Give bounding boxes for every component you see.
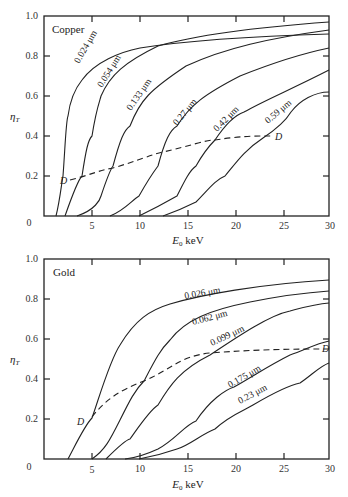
gold-ytick-1.0: 1.0 xyxy=(26,253,39,264)
gold-ytick-0.4: 0.4 xyxy=(26,373,39,384)
gold-curve-0.099 xyxy=(106,303,329,459)
gold-origin-label: 0 xyxy=(27,461,32,472)
gold-xtick-15: 15 xyxy=(183,463,193,474)
copper-origin-label: 0 xyxy=(27,217,32,228)
gold-xtick-10: 10 xyxy=(135,463,145,474)
copper-xtick-20: 20 xyxy=(231,220,241,231)
gold-label-0.062: 0.062 μm xyxy=(191,308,229,327)
copper-xtick-10: 10 xyxy=(135,220,145,231)
copper-y-axis-title: ηT xyxy=(10,110,20,124)
gold-ytick-0.2: 0.2 xyxy=(26,413,39,424)
copper-label-0.27: 0.27 μm xyxy=(171,96,199,127)
copper-D-line xyxy=(70,136,272,180)
copper-label-0.42: 0.42 μm xyxy=(211,104,241,134)
copper-xtick-25: 25 xyxy=(279,220,289,231)
copper-ytick-0.6: 0.6 xyxy=(26,90,39,101)
gold-x-axis-title: E0 keV xyxy=(171,478,203,492)
copper-xtick-15: 15 xyxy=(183,220,193,231)
gold-D-end-label: D xyxy=(321,343,330,354)
gold-curves xyxy=(68,280,329,459)
copper-curves xyxy=(56,22,329,216)
copper-ytick-0.8: 0.8 xyxy=(26,50,39,61)
copper-label-0.59: 0.59 μm xyxy=(263,97,294,125)
gold-label-0.23: 0.23 μm xyxy=(236,382,269,406)
gold-chart: 1.0 0.8 0.6 0.4 0.2 0 5 10 15 20 25 30 E… xyxy=(10,253,335,492)
copper-D-end-label: D xyxy=(274,131,283,142)
gold-D-start-label: D xyxy=(76,416,85,427)
copper-curve-0.42 xyxy=(139,70,329,216)
copper-x-axis-title: E0 keV xyxy=(171,234,203,248)
gold-label-0.026: 0.026 μm xyxy=(184,285,222,301)
gold-panel-title: Gold xyxy=(53,266,76,278)
copper-ytick-1.0: 1.0 xyxy=(26,10,39,21)
gold-xtick-5: 5 xyxy=(90,464,95,475)
figure: 1.0 0.8 0.6 0.4 0.2 0 5 10 15 20 25 30 E… xyxy=(0,0,348,497)
gold-y-axis-title: ηT xyxy=(10,353,20,367)
gold-xtick-25: 25 xyxy=(279,463,289,474)
copper-panel-title: Copper xyxy=(52,23,85,35)
copper-xtick-5: 5 xyxy=(90,220,95,231)
gold-curve-0.026 xyxy=(68,280,329,459)
gold-xtick-30: 30 xyxy=(325,463,335,474)
copper-D-start-label: D xyxy=(59,175,68,186)
copper-chart: 1.0 0.8 0.6 0.4 0.2 0 5 10 15 20 25 30 E… xyxy=(10,10,335,248)
gold-ytick-0.8: 0.8 xyxy=(26,293,39,304)
gold-xtick-20: 20 xyxy=(231,463,241,474)
copper-xtick-30: 30 xyxy=(325,220,335,231)
gold-ytick-0.6: 0.6 xyxy=(26,333,39,344)
copper-curve-0.024 xyxy=(56,34,329,216)
copper-ytick-0.4: 0.4 xyxy=(26,130,39,141)
copper-ytick-0.2: 0.2 xyxy=(26,170,39,181)
gold-D-line xyxy=(92,349,329,417)
